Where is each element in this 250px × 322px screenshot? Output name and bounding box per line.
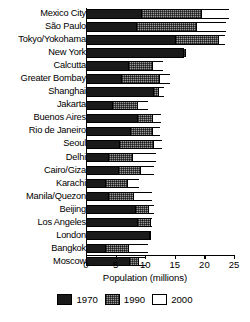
x-axis-title-text: Population (millions) bbox=[103, 272, 187, 283]
bar-segment-1970 bbox=[87, 219, 137, 226]
bar-segment-1990 bbox=[121, 75, 159, 82]
stacked-bar bbox=[86, 101, 148, 110]
bar-segment-2000 bbox=[150, 219, 152, 226]
stacked-bar bbox=[86, 218, 152, 227]
stacked-bar bbox=[86, 61, 163, 70]
x-tick-label: 5 bbox=[104, 259, 128, 270]
bar-segment-1970 bbox=[87, 128, 130, 135]
bar-segment-2000 bbox=[218, 36, 226, 43]
bar-segment-1990 bbox=[141, 10, 201, 17]
city-label: Karachi bbox=[0, 177, 86, 190]
plot-area: Mexico CitySão PauloTokyo/YokohamaNew Yo… bbox=[0, 0, 250, 322]
x-tick-label: 0 bbox=[74, 259, 98, 270]
city-label: Manila/Quezon bbox=[0, 190, 86, 203]
bar-segment-1970 bbox=[87, 75, 121, 82]
bar-segment-2000 bbox=[185, 49, 186, 56]
stacked-bar bbox=[86, 9, 229, 18]
bar-segment-1990 bbox=[137, 219, 151, 226]
bar-segment-1990 bbox=[128, 62, 152, 69]
stacked-bar bbox=[86, 114, 161, 123]
stacked-bar bbox=[86, 179, 139, 188]
bar-segment-2000 bbox=[196, 23, 227, 30]
bar-segment-2000 bbox=[201, 10, 230, 17]
city-label: Mexico City bbox=[0, 7, 86, 20]
city-label: Los Angeles bbox=[0, 216, 86, 229]
x-axis-title: Population (millions) bbox=[0, 272, 250, 283]
bar-segment-1970 bbox=[87, 167, 118, 174]
bar-segment-1970 bbox=[87, 88, 153, 95]
bar-rows: Mexico CitySão PauloTokyo/YokohamaNew Yo… bbox=[0, 8, 250, 269]
bar-segment-1990 bbox=[112, 102, 137, 109]
bar-segment-2000 bbox=[159, 75, 171, 82]
city-label: Shanghai bbox=[0, 85, 86, 98]
bar-segment-1990 bbox=[119, 141, 153, 148]
bar-segment-1970 bbox=[87, 193, 108, 200]
bar-segment-2000 bbox=[140, 167, 155, 174]
bar-segment-1970 bbox=[87, 245, 105, 252]
city-label: Jakarta bbox=[0, 98, 86, 111]
bar-segment-1990 bbox=[130, 128, 152, 135]
city-label: Bangkok bbox=[0, 242, 86, 255]
city-label: Delhi bbox=[0, 151, 86, 164]
legend-label-1970: 1970 bbox=[76, 294, 97, 305]
bar-segment-2000 bbox=[152, 115, 161, 122]
stacked-bar bbox=[86, 166, 154, 175]
bar-segment-1990 bbox=[105, 180, 127, 187]
city-label: New York bbox=[0, 46, 86, 59]
stacked-bar bbox=[86, 74, 170, 83]
bar-segment-2000 bbox=[148, 206, 155, 213]
legend-label-2000: 2000 bbox=[171, 294, 192, 305]
legend-item-2000: 2000 bbox=[152, 294, 192, 305]
white-swatch-icon bbox=[152, 294, 167, 305]
y-axis-line bbox=[86, 8, 87, 255]
bar-segment-2000 bbox=[137, 102, 149, 109]
bar-segment-2000 bbox=[152, 62, 164, 69]
legend-item-1990: 1990 bbox=[105, 294, 145, 305]
stacked-bar bbox=[86, 192, 152, 201]
bar-segment-1970 bbox=[87, 102, 112, 109]
stacked-bar bbox=[86, 205, 154, 214]
population-bar-chart: Mexico CitySão PauloTokyo/YokohamaNew Yo… bbox=[0, 0, 250, 322]
x-tick-label: 15 bbox=[163, 259, 187, 270]
stacked-bar bbox=[86, 127, 160, 136]
city-label: London bbox=[0, 229, 86, 242]
stacked-bar bbox=[86, 48, 184, 57]
bar-segment-1970 bbox=[87, 180, 105, 187]
bar-segment-2000 bbox=[127, 180, 140, 187]
stacked-bar bbox=[86, 22, 226, 31]
stacked-bar bbox=[86, 35, 225, 44]
bar-segment-1990 bbox=[135, 206, 148, 213]
stacked-bar bbox=[86, 244, 148, 253]
city-label: Tokyo/Yokohama bbox=[0, 33, 86, 46]
bar-segment-1990 bbox=[105, 245, 127, 252]
legend-label-1990: 1990 bbox=[124, 294, 145, 305]
bar-segment-1970 bbox=[87, 23, 136, 30]
city-label: São Paulo bbox=[0, 20, 86, 33]
x-tick-label: 25 bbox=[222, 259, 246, 270]
x-tick-label: 10 bbox=[133, 259, 157, 270]
bar-segment-1970 bbox=[87, 49, 183, 56]
gray-hatched-swatch-icon bbox=[105, 294, 120, 305]
stacked-bar bbox=[86, 87, 164, 96]
bar-segment-1970 bbox=[87, 10, 141, 17]
bar-segment-1970 bbox=[87, 141, 119, 148]
stacked-bar bbox=[86, 140, 162, 149]
bar-segment-1990 bbox=[108, 193, 133, 200]
bar-segment-1970 bbox=[87, 62, 128, 69]
stacked-bar bbox=[86, 153, 156, 162]
bar-segment-1970 bbox=[87, 154, 108, 161]
city-label: Seoul bbox=[0, 137, 86, 150]
x-axis-line bbox=[86, 255, 234, 256]
city-label: Rio de Janeiro bbox=[0, 124, 86, 137]
city-label: Buenos Aires bbox=[0, 111, 86, 124]
chart-legend: 1970 1990 2000 bbox=[0, 294, 250, 305]
bar-segment-1990 bbox=[118, 167, 139, 174]
city-label: Beijing bbox=[0, 203, 86, 216]
bar-segment-2000 bbox=[133, 193, 153, 200]
bar-segment-2000 bbox=[132, 154, 157, 161]
city-label: Cairo/Giza bbox=[0, 164, 86, 177]
x-tick-label: 20 bbox=[192, 259, 216, 270]
bar-segment-1990 bbox=[175, 36, 218, 43]
bar-segment-2000 bbox=[152, 128, 161, 135]
stacked-bar bbox=[86, 231, 151, 240]
